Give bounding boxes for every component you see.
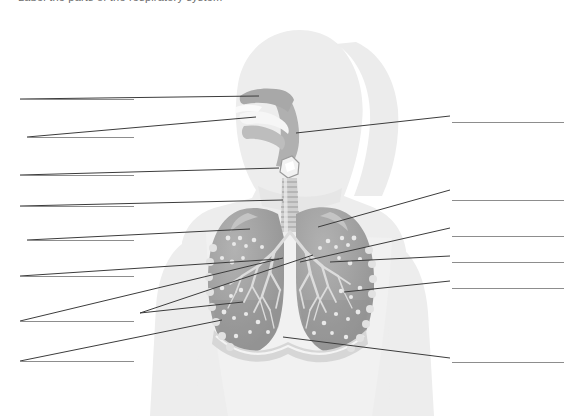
blank-left-1[interactable] [20,99,134,100]
blank-right-1[interactable] [452,122,564,123]
blank-right-3[interactable] [452,236,564,237]
blank-left-5[interactable] [27,240,134,241]
worksheet-canvas: Label the parts of the respiratory syste… [0,0,584,416]
leader-left-2 [27,117,256,137]
blank-left-6[interactable] [20,276,134,277]
respiratory-system-diagram [0,0,584,416]
blank-right-5[interactable] [452,288,564,289]
blank-left-8[interactable] [20,361,134,362]
leader-left-3 [20,168,279,175]
blank-left-4[interactable] [20,206,134,207]
blank-left-2[interactable] [27,137,134,138]
blank-left-3[interactable] [20,175,134,176]
blank-right-2[interactable] [452,200,564,201]
blank-right-6[interactable] [452,362,564,363]
blank-right-4[interactable] [452,262,564,263]
blank-left-7[interactable] [20,321,134,322]
